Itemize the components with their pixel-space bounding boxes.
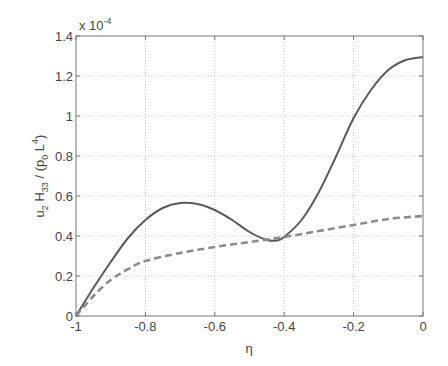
x-tick-label: -0.6 [204, 319, 226, 334]
y-tick-label: 0 [66, 309, 73, 324]
line-chart: -1-0.8-0.6-0.4-0.20 00.20.40.60.811.21.4… [0, 0, 448, 366]
y-tick-label: 0.8 [55, 149, 73, 164]
solid-line-series [76, 57, 423, 316]
y-tick-label: 1.2 [55, 69, 73, 84]
plot-area-frame [76, 36, 423, 316]
grid-lines [76, 36, 423, 316]
y-tick-label: 0.4 [55, 229, 73, 244]
y-tick-label: 1.4 [55, 29, 73, 44]
axis-ticks [76, 36, 423, 316]
y-tick-labels: 00.20.40.60.811.21.4 [55, 29, 73, 324]
y-axis-title: u2 H33 / (p0 L4) [30, 135, 50, 218]
y-tick-label: 0.2 [55, 269, 73, 284]
x-axis-title: η [245, 341, 252, 356]
x-tick-label: -0.4 [273, 319, 295, 334]
y-tick-label: 1 [66, 109, 73, 124]
x-tick-label: -0.2 [342, 319, 364, 334]
data-series [76, 57, 423, 316]
y-tick-label: 0.6 [55, 189, 73, 204]
x-tick-labels: -1-0.8-0.6-0.4-0.20 [70, 319, 426, 334]
x-tick-label: 0 [419, 319, 426, 334]
x-tick-label: -0.8 [134, 319, 156, 334]
y-multiplier: x 10-4 [79, 16, 112, 33]
